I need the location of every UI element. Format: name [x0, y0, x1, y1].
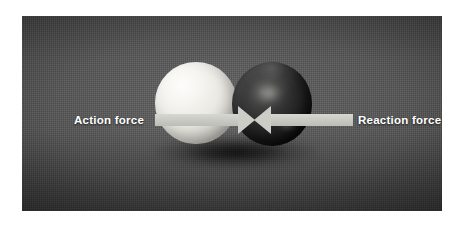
action-force-arrow — [155, 106, 255, 134]
force-diagram-figure: Action force Reaction force — [0, 0, 463, 226]
photograph-plate: Action force Reaction force — [22, 16, 442, 211]
action-arrow-head-icon — [238, 106, 255, 134]
reaction-force-label: Reaction force — [358, 115, 441, 127]
action-arrow-shaft — [155, 114, 239, 126]
action-force-label: Action force — [74, 115, 144, 127]
ball-contact-shadow — [150, 134, 322, 170]
reaction-force-arrow — [254, 106, 353, 134]
reaction-arrow-shaft — [270, 114, 353, 126]
reaction-arrow-head-icon — [254, 106, 271, 134]
